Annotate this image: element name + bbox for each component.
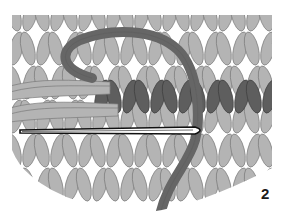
knitting-illustration: [0, 0, 286, 215]
step-number-label: 2: [261, 185, 269, 202]
stitch-panel: [0, 0, 286, 215]
